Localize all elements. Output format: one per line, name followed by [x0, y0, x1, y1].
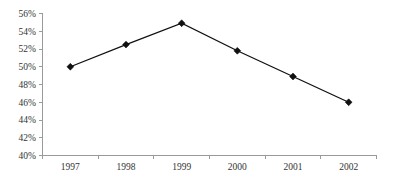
data-point-marker — [290, 73, 297, 80]
x-tick-label: 1998 — [117, 162, 136, 172]
y-tick-label: 50% — [19, 62, 37, 72]
x-tick-label: 2002 — [339, 162, 358, 172]
chart-canvas: 40%42%44%46%48%50%52%54%56% 199719981999… — [0, 0, 393, 184]
data-point-marker — [178, 20, 185, 27]
y-axis: 40%42%44%46%48%50%52%54%56% — [19, 9, 43, 161]
x-axis: 199719981999200020012002 — [43, 156, 377, 172]
x-tick-label: 2000 — [228, 162, 247, 172]
line-chart: 40%42%44%46%48%50%52%54%56% 199719981999… — [0, 0, 393, 184]
y-tick-label: 46% — [19, 98, 37, 108]
y-tick-label: 56% — [19, 9, 37, 19]
series-line — [70, 23, 348, 102]
y-tick-label: 48% — [19, 80, 37, 90]
data-point-marker — [123, 41, 130, 48]
data-point-marker — [67, 63, 74, 70]
data-point-marker — [234, 47, 241, 54]
y-tick-label: 44% — [19, 115, 37, 125]
data-point-marker — [345, 99, 352, 106]
y-tick-label: 54% — [19, 27, 37, 37]
y-tick-label: 40% — [19, 151, 37, 161]
y-tick-label: 42% — [19, 133, 37, 143]
x-tick-label: 2001 — [284, 162, 303, 172]
plot-area — [67, 20, 352, 106]
x-tick-label: 1999 — [172, 162, 191, 172]
x-tick-label: 1997 — [61, 162, 80, 172]
y-tick-label: 52% — [19, 44, 37, 54]
